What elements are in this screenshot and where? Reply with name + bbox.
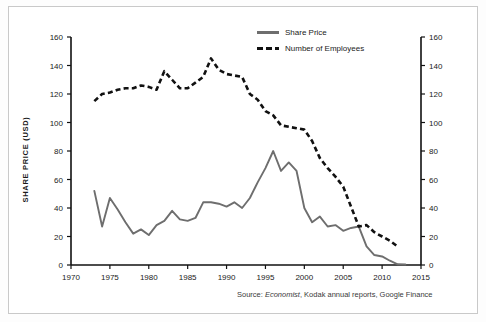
x-tick-label: 1970	[62, 273, 80, 282]
y-tick-label-right: 120	[429, 90, 443, 99]
legend-item-share-price: Share Price	[257, 28, 327, 37]
y-tick-label-left: 140	[50, 62, 64, 71]
x-tick-label: 1985	[179, 273, 197, 282]
y-tick-label-right: 140	[429, 62, 443, 71]
x-tick-label: 1975	[101, 273, 119, 282]
x-tick-label: 2005	[334, 273, 352, 282]
x-tick-label: 2010	[373, 273, 391, 282]
legend-item-number-of-employees: Number of Employees	[257, 44, 364, 53]
figure-border: 0204060801001201401600204060801001201401…	[8, 6, 478, 314]
y-axis-label-left: SHARE PRICE (USD)	[21, 100, 30, 220]
y-tick-label-right: 100	[429, 119, 443, 128]
x-tick-label: 2015	[412, 273, 430, 282]
legend-swatch-solid-icon	[257, 31, 279, 34]
series-line-share-price	[94, 151, 405, 264]
x-tick-label: 1980	[140, 273, 158, 282]
legend-label-share-price: Share Price	[285, 28, 327, 37]
x-tick-label: 2000	[295, 273, 313, 282]
legend-label-number-of-employees: Number of Employees	[285, 44, 364, 53]
y-tick-label-right: 60	[429, 176, 438, 185]
source-publication: Economist	[265, 290, 300, 299]
y-tick-label-left: 80	[54, 147, 63, 156]
y-tick-label-left: 60	[54, 176, 63, 185]
y-tick-label-left: 100	[50, 119, 64, 128]
y-tick-label-left: 120	[50, 90, 64, 99]
source-note: Source: Economist, Kodak annual reports,…	[237, 290, 433, 299]
y-tick-label-right: 80	[429, 147, 438, 156]
y-tick-label-left: 0	[59, 261, 64, 270]
y-tick-label-left: 20	[54, 233, 63, 242]
figure-canvas: 0204060801001201401600204060801001201401…	[0, 0, 486, 322]
source-prefix: Source:	[237, 290, 265, 299]
chart-plot: 0204060801001201401600204060801001201401…	[9, 7, 477, 313]
series-line-number-of-employees	[94, 58, 397, 246]
y-tick-label-right: 20	[429, 233, 438, 242]
y-tick-label-left: 160	[50, 33, 64, 42]
legend-swatch-dashed-icon	[257, 47, 279, 50]
source-rest: , Kodak annual reports, Google Finance	[300, 290, 433, 299]
y-tick-label-right: 160	[429, 33, 443, 42]
x-tick-label: 1990	[218, 273, 236, 282]
y-tick-label-right: 0	[429, 261, 434, 270]
y-tick-label-right: 40	[429, 204, 438, 213]
y-tick-label-left: 40	[54, 204, 63, 213]
x-tick-label: 1995	[257, 273, 275, 282]
